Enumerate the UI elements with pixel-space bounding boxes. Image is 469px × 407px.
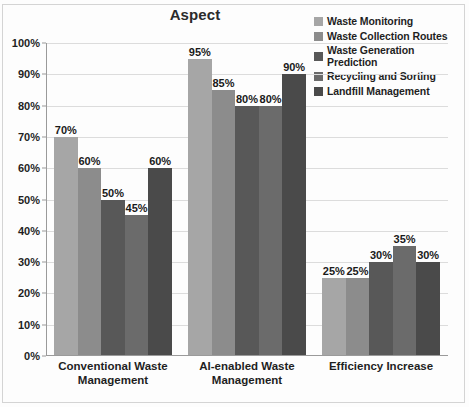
bar-slot: 30% [416,43,440,356]
bar-group: 25%25%30%35%30% [314,43,448,356]
plot-area: 100%90%80%70%60%50%40%30%20%10%0% 70%60%… [46,43,448,356]
bar-slot: 60% [78,43,102,356]
x-axis-category-label: Efficiency Increase [314,359,448,387]
bar[interactable]: 80% [259,106,283,356]
bar-slot: 60% [148,43,172,356]
legend-item[interactable]: Waste Monitoring [314,14,466,28]
bar-value-label: 30% [417,249,439,261]
bar-slot: 45% [125,43,149,356]
bar-group: 95%85%80%80%90% [180,43,314,356]
bar[interactable]: 25% [346,278,370,356]
bar-slot: 80% [235,43,259,356]
bar-value-label: 95% [189,46,211,58]
y-axis-tick-label: 60% [18,162,40,174]
gridline [46,356,448,357]
y-axis-tick-label: 0% [24,350,40,362]
bar-value-label: 80% [260,93,282,105]
y-axis-tick-label: 20% [18,287,40,299]
bar-value-label: 60% [149,155,171,167]
bar[interactable]: 30% [369,262,393,356]
legend-item[interactable]: Waste Collection Routes [314,29,466,43]
bar[interactable]: 25% [322,278,346,356]
legend-item-label: Waste Monitoring [327,15,413,27]
bar-chart: Aspect Waste MonitoringWaste Collection … [0,0,469,407]
bar-slot: 80% [259,43,283,356]
bar-value-label: 85% [212,77,234,89]
bar-slot: 25% [322,43,346,356]
x-axis-labels: Conventional Waste ManagementAI-enabled … [46,359,448,387]
bar-group-bars: 95%85%80%80%90% [188,43,306,356]
x-axis-line [46,355,448,356]
legend-swatch-icon [314,32,323,41]
bar[interactable]: 80% [235,106,259,356]
bar-slot: 85% [212,43,236,356]
y-axis-line [46,43,47,356]
bar[interactable]: 60% [148,168,172,356]
bar-group: 70%60%50%45%60% [46,43,180,356]
y-axis-tick-label: 40% [18,225,40,237]
y-axis-tick-label: 80% [18,100,40,112]
bar-slot: 90% [282,43,306,356]
bar-value-label: 45% [126,202,148,214]
bar[interactable]: 60% [78,168,102,356]
x-axis-category-label: Conventional Waste Management [46,359,180,387]
bar-value-label: 60% [78,155,100,167]
bar[interactable]: 70% [54,137,78,356]
bar-value-label: 35% [394,233,416,245]
bar[interactable]: 35% [393,246,417,356]
y-axis-tick-label: 90% [18,68,40,80]
bar-value-label: 80% [236,93,258,105]
legend-swatch-icon [314,17,323,26]
bar[interactable]: 30% [416,262,440,356]
y-axis-tick-label: 50% [18,194,40,206]
legend-item-label: Waste Collection Routes [327,30,447,42]
bar-value-label: 25% [323,265,345,277]
y-axis-tick-label: 100% [12,37,40,49]
bar-group-bars: 25%25%30%35%30% [322,43,440,356]
bar[interactable]: 45% [125,215,149,356]
bar-slot: 35% [393,43,417,356]
bar[interactable]: 85% [212,90,236,356]
bar-groups: 70%60%50%45%60%95%85%80%80%90%25%25%30%3… [46,43,448,356]
bar-slot: 25% [346,43,370,356]
bar[interactable]: 50% [101,200,125,357]
bar-value-label: 50% [102,187,124,199]
bar-slot: 95% [188,43,212,356]
bar-value-label: 70% [55,124,77,136]
bar[interactable]: 90% [282,74,306,356]
bar-value-label: 90% [283,61,305,73]
y-axis-tick-label: 30% [18,256,40,268]
bar-value-label: 30% [370,249,392,261]
bar[interactable]: 95% [188,59,212,356]
x-axis-category-label: AI-enabled Waste Management [180,359,314,387]
bar-group-bars: 70%60%50%45%60% [54,43,172,356]
bar-slot: 30% [369,43,393,356]
bar-value-label: 25% [346,265,368,277]
y-axis-tick-label: 10% [18,319,40,331]
y-axis-tick-label: 70% [18,131,40,143]
bar-slot: 70% [54,43,78,356]
bar-slot: 50% [101,43,125,356]
